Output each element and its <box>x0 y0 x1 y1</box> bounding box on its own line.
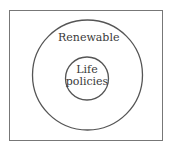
life-policies-label: Life policies <box>62 64 112 88</box>
renewable-label: Renewable <box>58 32 118 44</box>
life-policies-label-line2: policies <box>62 76 112 88</box>
venn-diagram: Renewable Life policies <box>0 0 169 145</box>
